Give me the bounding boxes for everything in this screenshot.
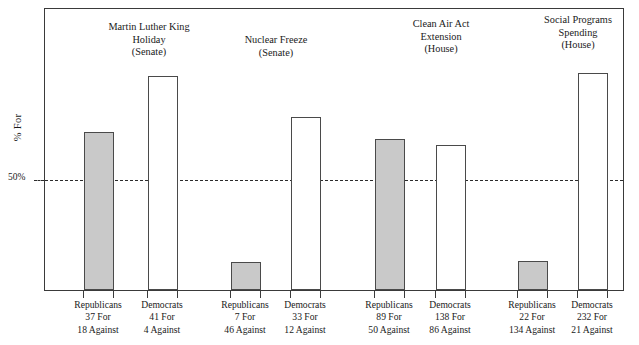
x-axis-tick xyxy=(83,291,84,298)
x-label-nuclear-freeze-democrats: Democrats 33 For 12 Against xyxy=(265,299,345,336)
x-label-line: Democrats xyxy=(122,299,202,311)
x-label-clean-air-act-democrats: Democrats 138 For 86 Against xyxy=(410,299,490,336)
reference-line-stub xyxy=(34,180,44,181)
x-axis-tick xyxy=(320,291,321,298)
bar-mlk-republicans[interactable] xyxy=(84,132,114,290)
bar-nuclear-freeze-democrats[interactable] xyxy=(291,117,321,290)
bar-social-programs-republicans[interactable] xyxy=(518,261,548,290)
bar-nuclear-freeze-republicans[interactable] xyxy=(231,262,261,290)
x-axis-tick xyxy=(577,291,578,298)
x-axis-tick xyxy=(517,291,518,298)
group-title-line: (House) xyxy=(493,39,639,52)
x-axis-tick xyxy=(177,291,178,298)
bar-mlk-democrats[interactable] xyxy=(148,76,178,290)
x-label-line: 41 For xyxy=(122,311,202,323)
group-title-line: Nuclear Freeze xyxy=(191,34,361,47)
x-axis-tick xyxy=(290,291,291,298)
x-axis-tick xyxy=(260,291,261,298)
x-label-line: 138 For xyxy=(410,311,490,323)
bar-clean-air-act-republicans[interactable] xyxy=(375,139,405,290)
bar-clean-air-act-democrats[interactable] xyxy=(436,145,466,290)
group-title-line: (Senate) xyxy=(191,47,361,60)
x-axis-tick xyxy=(230,291,231,298)
x-label-line: 86 Against xyxy=(410,324,490,336)
bar-social-programs-democrats[interactable] xyxy=(578,73,608,290)
x-axis-tick xyxy=(607,291,608,298)
group-title-line: Spending xyxy=(493,27,639,40)
x-label-mlk-democrats: Democrats 41 For 4 Against xyxy=(122,299,202,336)
reference-line-50-percent xyxy=(45,180,623,181)
x-axis-tick xyxy=(374,291,375,298)
y-axis-tick-label-50: 50% xyxy=(8,172,25,182)
x-axis-tick xyxy=(113,291,114,298)
x-axis-tick xyxy=(465,291,466,298)
x-axis-tick xyxy=(547,291,548,298)
x-axis-tick xyxy=(435,291,436,298)
x-label-line: Democrats xyxy=(552,299,632,311)
group-title-line: Martin Luther King xyxy=(64,21,234,34)
y-axis-label: % For xyxy=(12,93,23,163)
x-label-social-programs-democrats: Democrats 232 For 21 Against xyxy=(552,299,632,336)
x-label-line: 21 Against xyxy=(552,324,632,336)
x-label-line: 232 For xyxy=(552,311,632,323)
group-title-line: Social Programs xyxy=(493,14,639,27)
x-label-line: Democrats xyxy=(410,299,490,311)
x-label-line: 12 Against xyxy=(265,324,345,336)
x-label-line: 33 For xyxy=(265,311,345,323)
group-title-social-programs: Social Programs Spending (House) xyxy=(493,14,639,52)
chart-figure: % For 50% Martin Luther King Holiday (Se… xyxy=(0,0,639,345)
group-title-nuclear-freeze: Nuclear Freeze (Senate) xyxy=(191,34,361,59)
x-axis-tick xyxy=(147,291,148,298)
plot-area: Martin Luther King Holiday (Senate) Nucl… xyxy=(44,8,624,291)
x-axis-tick xyxy=(404,291,405,298)
x-label-line: 4 Against xyxy=(122,324,202,336)
x-label-line: Democrats xyxy=(265,299,345,311)
